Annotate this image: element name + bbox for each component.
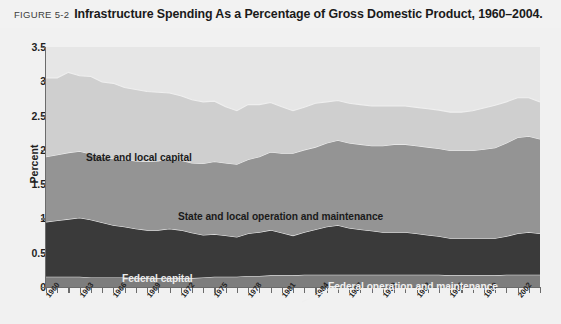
x-tick-mark	[68, 288, 69, 293]
x-tick-mark	[158, 288, 159, 293]
x-tick-mark	[136, 288, 137, 293]
x-tick-mark	[91, 288, 92, 293]
x-tick-mark	[170, 288, 171, 293]
page-title: Infrastructure Spending As a Percentage …	[74, 7, 542, 21]
x-tick-mark	[237, 288, 238, 293]
y-tick-label: 0.5	[6, 247, 46, 259]
federal-om-leader-line	[300, 286, 340, 304]
y-tick-label: 3	[6, 75, 46, 87]
y-tick-label: 2.5	[6, 110, 46, 122]
x-tick-mark	[529, 288, 530, 293]
x-tick-mark	[102, 288, 103, 293]
y-tick-label: 3.5	[6, 41, 46, 53]
y-tick-label: 0	[6, 281, 46, 293]
x-tick-mark	[125, 288, 126, 293]
x-tick-mark	[540, 288, 541, 293]
figure-container: FIGURE 5-2 Infrastructure Spending As a …	[0, 0, 561, 324]
x-tick-mark	[226, 288, 227, 293]
y-tick-label: 1	[6, 212, 46, 224]
x-tick-mark	[293, 288, 294, 293]
stacked-area-chart	[46, 47, 540, 287]
x-tick-mark	[57, 288, 58, 293]
x-tick-mark	[203, 288, 204, 293]
y-tick-label: 1.5	[6, 178, 46, 190]
plot-area	[46, 47, 540, 287]
y-tick-label: 2	[6, 144, 46, 156]
y-axis-line	[45, 47, 46, 288]
x-tick-mark	[192, 288, 193, 293]
x-tick-mark	[259, 288, 260, 293]
series-label-state-local-capital: State and local capital	[86, 152, 192, 163]
figure-title-bar: FIGURE 5-2 Infrastructure Spending As a …	[0, 0, 561, 28]
x-tick-mark	[271, 288, 272, 293]
y-axis-ticks: 3.532.521.510.50	[0, 28, 46, 324]
series-label-state-local-om: State and local operation and maintenanc…	[178, 211, 383, 222]
chart-area: Percent 3.532.521.510.50 196019631966196…	[0, 28, 561, 324]
series-label-federal-om: Federal operation and maintenance	[328, 281, 498, 292]
series-label-federal-capital: Federal capital	[122, 273, 193, 284]
x-tick-mark	[506, 288, 507, 293]
figure-number-label: FIGURE 5-2	[14, 9, 69, 20]
